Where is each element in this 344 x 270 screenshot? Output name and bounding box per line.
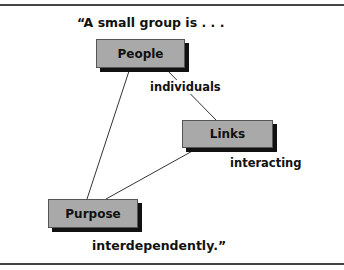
edge-label-interacting: interacting — [230, 156, 302, 170]
edge-links-purpose — [106, 149, 196, 199]
edge-label-individuals: individuals — [149, 80, 222, 94]
node-links-label: Links — [210, 127, 245, 141]
node-links: Links — [182, 120, 273, 148]
edge-people-links — [165, 68, 216, 120]
node-people: People — [96, 39, 185, 68]
quote-close: interdependently.” — [92, 238, 226, 253]
quote-open: “A small group is . . . — [77, 15, 224, 30]
node-purpose-label: Purpose — [65, 207, 120, 221]
bottom-rule — [0, 263, 344, 265]
node-purpose: Purpose — [48, 199, 138, 228]
node-people-label: People — [117, 47, 163, 61]
edge-people-purpose — [87, 68, 130, 199]
